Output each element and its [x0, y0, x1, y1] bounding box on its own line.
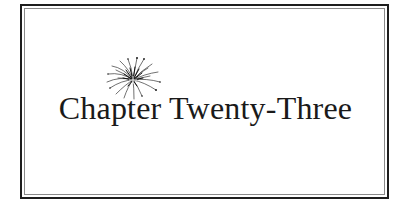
chapter-title: Chapter Twenty-Three	[0, 88, 411, 128]
